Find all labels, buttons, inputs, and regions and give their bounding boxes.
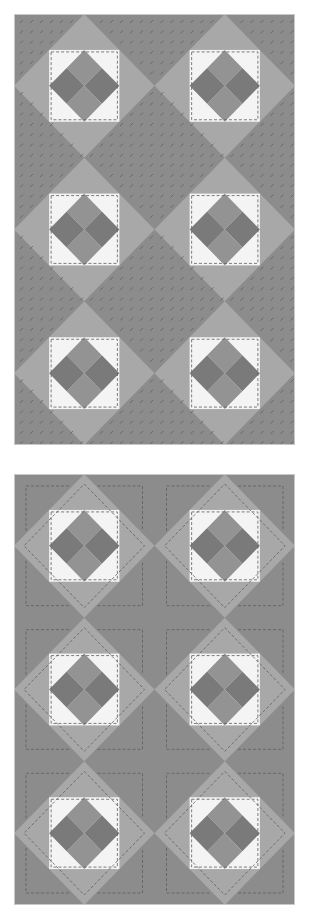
quilt-diagram-top <box>14 14 295 445</box>
quilt-panel-top <box>14 14 295 445</box>
quilt-panel-bottom <box>14 474 295 905</box>
quilt-diagram-bottom <box>14 474 295 905</box>
